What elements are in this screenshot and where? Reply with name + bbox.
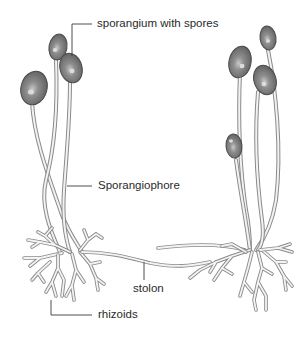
left-sporangia: [17, 33, 85, 108]
label-sporangium: sporangium with spores: [97, 18, 218, 30]
label-rhizoids: rhizoids: [98, 309, 138, 321]
sporangium-leader: [72, 24, 92, 56]
right-rhizoids: [190, 244, 292, 310]
rhizoids-leader: [51, 300, 92, 315]
stolon-hypha: [82, 245, 245, 266]
left-rhizoids: [24, 228, 104, 300]
label-stolon: stolon: [133, 283, 164, 295]
right-sporangia: [225, 25, 280, 159]
label-sporangiophore: Sporangiophore: [98, 180, 180, 192]
diagram-canvas: sporangium with spores Sporangiophore st…: [0, 0, 305, 340]
